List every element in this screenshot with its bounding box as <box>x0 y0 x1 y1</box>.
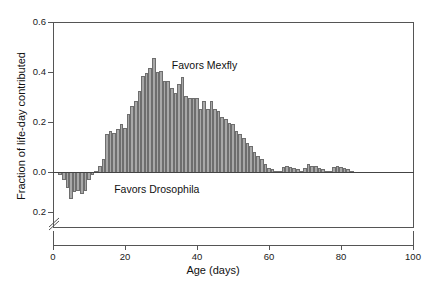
x-axis-tick-label: 0 <box>33 252 73 262</box>
annotation-favors-mexfly: Favors Mexfly <box>172 59 237 71</box>
y-axis-tick <box>48 212 53 213</box>
x-axis-tick-label: 40 <box>177 252 217 262</box>
plot-frame <box>53 22 414 228</box>
x-axis-title: Age (days) <box>0 264 426 276</box>
y-axis-line <box>53 22 54 213</box>
frame-left-edge-lower <box>53 231 54 245</box>
zero-reference-line <box>53 172 414 173</box>
x-axis-tick-label: 20 <box>105 252 145 262</box>
x-axis-tick-label: 80 <box>321 252 361 262</box>
x-axis-tick <box>413 245 414 250</box>
x-axis-tick <box>197 245 198 250</box>
x-axis-tick <box>341 245 342 250</box>
y-axis-title: Fraction of life-day contributed <box>15 19 27 233</box>
frame-right-edge-lower <box>413 231 414 245</box>
annotation-favors-drosophila: Favors Drosophila <box>114 183 199 195</box>
frame-right-edge-upper <box>413 22 414 213</box>
y-axis-break-icon <box>48 215 60 231</box>
x-axis-line <box>53 245 414 246</box>
y-axis-tick <box>48 172 53 173</box>
plot-area <box>54 23 413 227</box>
x-axis-tick <box>125 245 126 250</box>
x-axis-tick-label: 60 <box>249 252 289 262</box>
y-axis-tick <box>48 22 53 23</box>
x-axis-tick <box>53 245 54 250</box>
histogram-bars <box>54 23 415 213</box>
y-axis-tick <box>48 122 53 123</box>
frame-top-edge <box>53 22 414 23</box>
chart-root: 0.60.40.20.00.2 020406080100 Favors Mexf… <box>0 0 426 283</box>
y-axis-tick <box>48 72 53 73</box>
x-axis-tick <box>269 245 270 250</box>
histogram-bar <box>91 173 95 175</box>
x-axis-tick-label: 100 <box>393 252 426 262</box>
